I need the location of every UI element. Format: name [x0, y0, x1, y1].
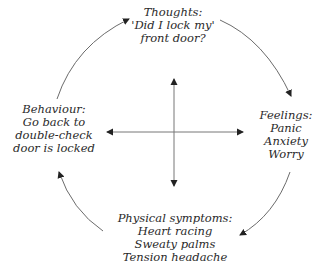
node-line: door is locked — [0, 142, 108, 155]
node-line: Tension headache — [100, 251, 250, 264]
node-line: Worry — [244, 148, 327, 161]
node-thoughts: Thoughts: 'Did I lock my' front door? — [115, 6, 231, 45]
node-behaviour: Behaviour: Go back to double-check door … — [0, 103, 108, 155]
node-physical-symptoms: Physical symptoms: Heart racing Sweaty p… — [100, 212, 250, 264]
node-feelings: Feelings: Panic Anxiety Worry — [244, 109, 327, 161]
node-line: front door? — [115, 32, 231, 45]
arrow-physical-to-behaviour — [59, 172, 103, 231]
